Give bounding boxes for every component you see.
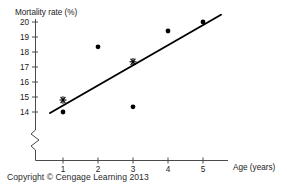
y-tick-label-14: 14 [20,108,30,117]
y-axis-break-icon [31,130,39,150]
fitted-marker-age-3 [130,58,137,65]
chart-figure: Mortality rate (%) 20 19 18 17 16 15 1 [0,0,287,190]
y-axis-title: Mortality rate (%) [15,8,78,17]
data-point-age-5 [201,20,206,25]
data-points [61,20,206,115]
x-axis-title: Age (years) [233,163,276,172]
y-tick-label-16: 16 [20,78,30,87]
copyright-caption: Copyright © Cengage Learning 2013 [7,172,149,182]
data-point-age-1 [61,110,66,115]
y-tick-label-15: 15 [20,93,30,102]
data-point-age-4 [166,29,171,34]
y-axis-tick-labels: 20 19 18 17 16 15 14 [20,18,30,117]
y-tick-label-18: 18 [20,48,30,57]
y-tick-label-17: 17 [20,63,30,72]
trend-line [50,15,221,113]
x-tick-label-4: 4 [166,165,171,174]
y-tick-label-19: 19 [20,33,30,42]
data-point-age-3 [131,104,136,109]
x-tick-label-5: 5 [201,165,206,174]
data-point-age-2 [96,44,101,49]
y-tick-label-20: 20 [20,18,30,27]
fitted-marker-age-1 [60,96,67,103]
fitted-value-markers [60,58,137,104]
scatter-plot: Mortality rate (%) 20 19 18 17 16 15 1 [0,0,287,190]
